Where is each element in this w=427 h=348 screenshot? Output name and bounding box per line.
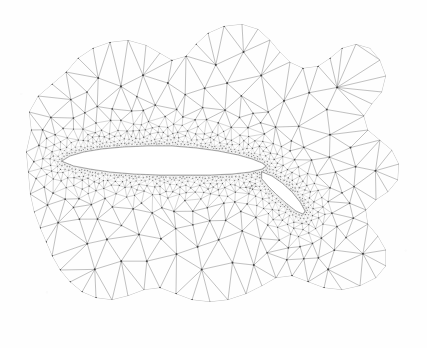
airfoil-mesh-plot (0, 0, 427, 348)
figure-root: Figure (0, 0, 427, 348)
